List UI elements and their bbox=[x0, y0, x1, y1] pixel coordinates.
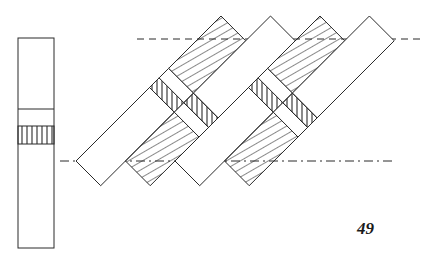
elevation-bar bbox=[18, 38, 54, 248]
hatched-band bbox=[18, 126, 54, 144]
figure-number: 49 bbox=[357, 219, 374, 239]
weave-diagram bbox=[0, 0, 441, 261]
diagonal-strips bbox=[76, 16, 394, 186]
